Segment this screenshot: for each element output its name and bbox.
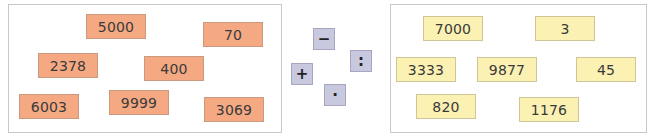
number-card-yellow[interactable]: 3333 <box>396 57 456 82</box>
number-card-yellow[interactable]: 820 <box>416 94 476 119</box>
number-card-yellow[interactable]: 1176 <box>519 97 579 122</box>
minus-operator-card[interactable]: − <box>313 28 335 50</box>
number-card-orange[interactable]: 70 <box>203 22 263 47</box>
number-card-orange[interactable]: 9999 <box>109 90 169 115</box>
number-card-orange[interactable]: 3069 <box>204 97 264 122</box>
number-card-orange[interactable]: 6003 <box>19 94 79 119</box>
plus-operator-card[interactable]: + <box>291 63 313 85</box>
number-card-yellow[interactable]: 45 <box>576 57 636 82</box>
divide-operator-card[interactable]: : <box>350 50 372 72</box>
number-card-orange[interactable]: 2378 <box>38 53 98 78</box>
multiply-operator-card[interactable]: · <box>324 84 346 106</box>
number-card-yellow[interactable]: 7000 <box>423 16 483 41</box>
number-card-yellow[interactable]: 9877 <box>477 57 537 82</box>
number-card-orange[interactable]: 400 <box>144 56 204 81</box>
number-card-yellow[interactable]: 3 <box>535 16 595 41</box>
number-card-orange[interactable]: 5000 <box>86 14 146 39</box>
